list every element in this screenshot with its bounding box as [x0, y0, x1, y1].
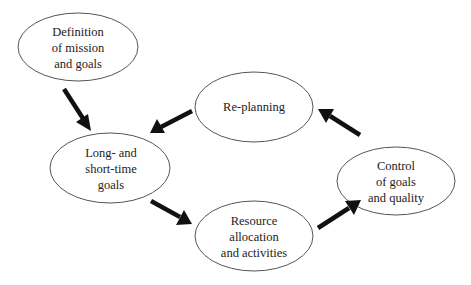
node-label-line: Long- and: [85, 146, 137, 160]
node-label-line: and activities: [221, 246, 287, 260]
arrow-shaft: [64, 89, 84, 120]
node-label-line: Control: [377, 159, 416, 173]
arrow-definition-to-long-short-goals: [64, 89, 91, 131]
node-label-line: allocation: [229, 230, 279, 244]
arrow-shaft: [330, 116, 360, 135]
node-label-line: Definition: [52, 25, 104, 39]
node-label-line: of goals: [376, 175, 416, 189]
arrow-shaft: [161, 111, 192, 127]
node-label-line: goals: [98, 178, 125, 192]
node-label-line: Re-planning: [223, 100, 286, 114]
node-label-line: short-time: [85, 162, 137, 176]
arrow-shaft: [151, 201, 180, 217]
diagram-canvas: Definition of mission and goals Re-plann…: [0, 0, 471, 285]
arrow-replanning-to-long-short-goals: [150, 111, 192, 133]
node-label-line: and quality: [368, 191, 425, 205]
arrow-resource-allocation-to-control: [318, 200, 361, 228]
arrow-control-to-replanning: [318, 109, 360, 135]
node-label-line: of mission: [52, 41, 105, 55]
node-replanning: Re-planning: [195, 72, 313, 142]
node-resource-allocation: Resource allocation and activities: [195, 201, 313, 271]
arrow-long-short-goals-to-resource-allocation: [151, 201, 192, 225]
node-label-line: and goals: [54, 57, 102, 71]
node-definition: Definition of mission and goals: [18, 13, 138, 81]
arrow-shaft: [318, 208, 349, 228]
node-label-line: Resource: [231, 214, 278, 228]
node-long-short-goals: Long- and short-time goals: [50, 133, 170, 203]
